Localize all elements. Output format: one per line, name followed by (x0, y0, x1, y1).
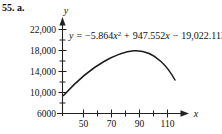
graph-svg: 22,000 18,000 14,000 10,000 6000 50 70 9… (0, 0, 222, 134)
svg-text:y=−5.864x2+947.552x−19,022.113: y=−5.864x2+947.552x−19,022.113 (68, 30, 222, 41)
y-axis-arrowhead (59, 17, 65, 26)
equation-equals: = (76, 30, 82, 41)
x-axis (57, 110, 189, 116)
equation-term3: 19,022.113 (181, 30, 222, 41)
y-tick-label-6000: 6000 (37, 109, 56, 119)
y-axis-label: y (63, 5, 69, 16)
equation-term2-coef: 947.552 (133, 30, 166, 41)
y-tick-label-18000: 18,000 (30, 46, 56, 56)
y-tick-label-14000: 14,000 (30, 67, 56, 77)
x-tick-label-70: 70 (107, 119, 117, 129)
x-axis-label: x (193, 108, 199, 119)
y-axis (59, 17, 65, 116)
x-tick-label-110: 110 (161, 119, 175, 129)
y-tick-label-22000: 22,000 (30, 25, 56, 35)
equation-term1-coef: −5.864 (85, 30, 113, 41)
y-tick-label-10000: 10,000 (30, 88, 56, 98)
equation-term2-var: x (164, 30, 170, 41)
x-tick-label-50: 50 (79, 119, 89, 129)
x-tick-label-90: 90 (135, 119, 145, 129)
equation-minus: − (173, 30, 179, 41)
equation-term1-exponent: 2 (118, 30, 122, 37)
equation-plus: + (124, 30, 130, 41)
equation-annotation: y=−5.864x2+947.552x−19,022.113 (68, 30, 222, 41)
equation-lhs: y (68, 30, 74, 41)
x-axis-arrowhead (181, 110, 190, 116)
figure-container: 55. a. (0, 0, 222, 134)
parabola-curve (64, 51, 176, 96)
